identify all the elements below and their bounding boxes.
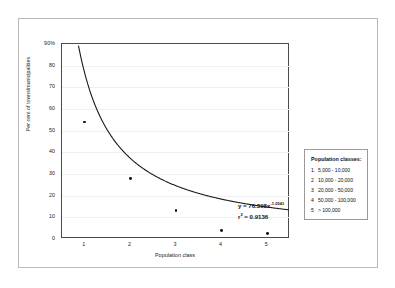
legend-row: 320,000 - 50,000 [311,187,362,193]
y-tick-label: 0 [52,235,55,241]
equation-exponent: -1.0541 [270,201,284,206]
y-tick-label: 40 [49,148,55,154]
legend-row-number: 1. [311,167,318,173]
legend-row-range: 50,000 - 100,000 [318,197,356,203]
legend-rows: 1.5,000 - 10,000210,000 - 20,000320,000 … [311,167,362,214]
figure-frame: Per cent of towns/municipalities 90%8070… [18,18,378,268]
r-squared-value: = 0.9136 [243,213,269,220]
legend-row-range: 10,000 - 20,000 [318,177,353,183]
legend-box: Population classes: 1.5,000 - 10,000210,… [304,149,368,220]
x-axis-title: Population class [61,252,289,258]
y-tick-label: 90% [44,40,55,46]
x-tick-label: 3 [174,241,177,247]
data-point [129,177,132,180]
legend-row-range: 5,000 - 10,000 [318,167,350,173]
data-point [266,232,269,235]
legend-row: 5 > 100,000 [311,207,362,213]
y-tick-label: 10 [49,213,55,219]
y-axis-tick-labels: 90%80706050403020100 [19,43,59,238]
equation-text: y = 76.398x [238,202,270,209]
equation-annotation: y = 76.398x-1.0541 r2 = 0.9136 [238,199,284,221]
legend-row-range: 20,000 - 50,000 [318,187,353,193]
data-point [83,121,86,124]
r-squared-line: r2 = 0.9136 [238,210,284,221]
legend-row-number: 2 [311,177,318,183]
legend-row: 450,000 - 100,000 [311,197,362,203]
y-tick-label: 20 [49,192,55,198]
y-tick-label: 70 [49,83,55,89]
x-tick-label: 1 [82,241,85,247]
legend-row: 1.5,000 - 10,000 [311,167,362,173]
plot-area: y = 76.398x-1.0541 r2 = 0.9136 [61,43,289,238]
legend-row: 210,000 - 20,000 [311,177,362,183]
legend-row-number: 3 [311,187,318,193]
data-point [220,229,223,232]
y-tick-label: 50 [49,127,55,133]
y-tick-label: 30 [49,170,55,176]
x-tick-label: 5 [265,241,268,247]
legend-row-number: 4 [311,197,318,203]
legend-row-number: 5 [311,207,318,213]
legend-title: Population classes: [311,156,362,162]
y-tick-label: 60 [49,105,55,111]
equation-line: y = 76.398x-1.0541 [238,199,284,210]
x-tick-label: 2 [128,241,131,247]
y-tick-label: 80 [49,62,55,68]
data-point [175,209,178,212]
x-tick-label: 4 [219,241,222,247]
legend-row-range: > 100,000 [318,207,340,213]
